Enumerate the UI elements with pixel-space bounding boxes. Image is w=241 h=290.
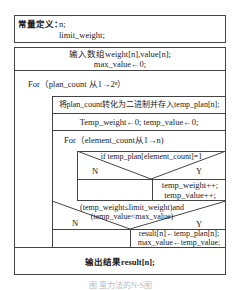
condition1-no: N: [92, 166, 98, 176]
condition1-yes-branch: temp_weight++; temp_value++;: [152, 180, 226, 201]
temp-weight-inc: temp_weight++;: [153, 180, 227, 190]
max-value-init: max_value←0;: [14, 59, 226, 69]
inner-loop-label: For（element_count从1→n): [64, 135, 164, 145]
input-row: 输入数组weight[n],value[n]; max_value←0;: [14, 47, 226, 71]
input-arrays: 输入数组weight[n],value[n];: [14, 49, 226, 59]
output-row: 输出结果result[n];: [14, 247, 226, 275]
temp-value-inc: temp_value++;: [153, 190, 227, 200]
init-row: Temp_weight←0; temp_value←0;: [52, 114, 226, 131]
output-text: 输出结果result[n];: [14, 257, 226, 267]
figure-caption: 图 蛮力法的N-S图: [0, 281, 241, 290]
constants-box: 常量定义： n; limit_weight;: [14, 15, 226, 43]
condition2-yes-branch: result[n]←temp_plan[n]; max_value←temp_v…: [130, 230, 226, 247]
constants-label: 常量定义：: [18, 19, 63, 29]
convert-text: 将plan_count转化为二进制并存入temp_plan[n];: [52, 100, 226, 110]
convert-row: 将plan_count转化为二进制并存入temp_plan[n];: [52, 96, 226, 114]
outer-loop-label: For（plan_count 从1→2ⁿ）: [28, 79, 126, 89]
constant-n: n;: [59, 19, 66, 29]
condition1-yes: Y: [196, 166, 202, 176]
condition1-text: if temp_plan[element_count]=1: [77, 152, 226, 162]
constant-limit-weight: limit_weight;: [59, 30, 105, 40]
init-text: Temp_weight←0; temp_value←0;: [52, 117, 226, 127]
condition2-yes: Y: [196, 219, 202, 229]
condition2-no: N: [72, 218, 78, 228]
